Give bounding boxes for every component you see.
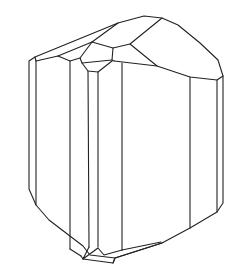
crystal-outline [29,16,223,258]
crystal-drawing [0,0,243,279]
bottom-termination-edges [70,242,162,263]
prism-vertical-edges [36,61,217,250]
top-termination-edges [35,18,223,80]
crystal-svg [0,0,243,279]
